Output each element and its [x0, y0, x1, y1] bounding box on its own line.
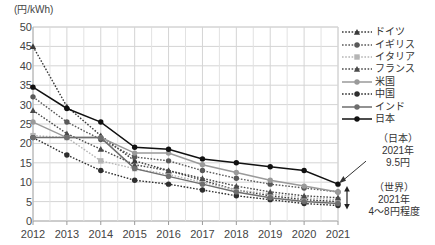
- legend-item-4[interactable]: 米国: [341, 76, 435, 88]
- data-point-marker: [354, 42, 359, 47]
- data-point-marker: [132, 150, 137, 155]
- data-point-marker: [268, 195, 273, 200]
- data-point-marker: [166, 174, 171, 179]
- data-point-marker: [98, 168, 103, 173]
- legend-marker-icon: [341, 39, 373, 51]
- legend-marker-icon: [341, 63, 373, 75]
- x-axis-tick-label: 2017: [190, 228, 214, 240]
- legend-item-label: 日本: [375, 113, 395, 125]
- data-point-marker: [268, 164, 273, 169]
- data-point-marker: [268, 178, 273, 183]
- data-point-marker: [200, 168, 205, 173]
- legend-item-label: イギリス: [375, 39, 415, 51]
- data-point-marker: [200, 187, 205, 192]
- data-point-marker: [98, 158, 103, 163]
- legend-item-3[interactable]: フランス: [341, 63, 435, 75]
- data-point-marker: [166, 158, 171, 163]
- legend-item-label: イタリア: [375, 51, 415, 63]
- legend-marker-icon: [341, 76, 373, 88]
- annotation-japan-line3: 9.5円: [362, 157, 434, 169]
- data-point-marker: [354, 116, 359, 121]
- data-point-marker: [200, 162, 205, 167]
- data-point-marker: [354, 104, 359, 109]
- legend-marker-icon: [341, 88, 373, 100]
- data-point-marker: [30, 94, 35, 99]
- world-range-arrow-head-top: [344, 186, 350, 192]
- x-axis-tick-label: 2021: [326, 228, 350, 240]
- data-point-marker: [98, 135, 103, 140]
- legend-item-0[interactable]: ドイツ: [341, 26, 435, 38]
- data-point-marker: [166, 147, 171, 152]
- x-axis-tick-label: 2016: [156, 228, 180, 240]
- data-point-marker: [200, 181, 205, 186]
- data-point-marker: [98, 146, 104, 152]
- legend-item-label: ドイツ: [375, 26, 405, 38]
- legend-marker-icon: [341, 113, 373, 125]
- annotation-japan-line2: 2021年: [362, 145, 434, 157]
- x-axis-tick-label: 2020: [292, 228, 316, 240]
- data-point-marker: [64, 106, 69, 111]
- x-axis-tick-label: 2012: [21, 228, 45, 240]
- x-axis-tick-label: 2019: [258, 228, 282, 240]
- annotation-world: （世界） 2021年 4〜8円程度: [352, 182, 435, 218]
- annotation-japan: （日本） 2021年 9.5円: [362, 133, 434, 169]
- data-point-marker: [234, 170, 239, 175]
- data-point-marker: [30, 84, 35, 89]
- annotation-world-line1: （世界）: [352, 182, 435, 194]
- data-point-marker: [30, 107, 36, 113]
- annotation-arrow-head: [339, 176, 346, 183]
- legend-item-label: フランス: [375, 63, 415, 75]
- data-point-marker: [64, 152, 69, 157]
- x-axis-tick-label: 2015: [122, 228, 146, 240]
- data-point-marker: [30, 135, 35, 140]
- annotation-world-line3: 4〜8円程度: [352, 206, 435, 218]
- x-axis-tick-label: 2013: [55, 228, 79, 240]
- data-point-marker: [166, 181, 171, 186]
- data-point-marker: [354, 91, 359, 96]
- data-point-marker: [234, 176, 239, 181]
- legend-item-label: インド: [375, 101, 405, 113]
- annotation-world-line2: 2021年: [352, 194, 435, 206]
- data-point-marker: [64, 119, 69, 124]
- data-point-marker: [354, 79, 359, 84]
- x-axis-tick-label: 2014: [89, 228, 113, 240]
- data-point-marker: [234, 160, 239, 165]
- legend-marker-icon: [341, 51, 373, 63]
- data-point-marker: [30, 119, 35, 124]
- data-point-marker: [301, 199, 306, 204]
- line-chart: (円/kWh) 05101520253035404550 20122013201…: [0, 0, 435, 245]
- data-point-marker: [354, 54, 359, 59]
- legend-item-2[interactable]: イタリア: [341, 51, 435, 63]
- data-point-marker: [234, 189, 239, 194]
- data-point-marker: [200, 156, 205, 161]
- data-point-marker: [301, 168, 306, 173]
- data-point-marker: [64, 135, 69, 140]
- world-range-arrow-head-bottom: [344, 204, 350, 210]
- data-point-marker: [132, 145, 137, 150]
- x-axis-tick-labels: 2012201320142015201620172018201920202021: [0, 222, 435, 245]
- legend-item-5[interactable]: 中国: [341, 88, 435, 100]
- annotation-japan-line1: （日本）: [362, 133, 434, 145]
- data-point-marker: [335, 201, 340, 206]
- data-point-marker: [98, 119, 103, 124]
- legend-marker-icon: [341, 26, 373, 38]
- data-point-marker: [132, 178, 137, 183]
- x-axis-tick-label: 2018: [224, 228, 248, 240]
- legend-item-label: 米国: [375, 76, 395, 88]
- data-point-marker: [132, 166, 137, 171]
- legend-item-6[interactable]: インド: [341, 100, 435, 112]
- legend-item-1[interactable]: イギリス: [341, 38, 435, 50]
- legend-item-label: 中国: [375, 88, 395, 100]
- legend-item-7[interactable]: 日本: [341, 113, 435, 125]
- data-point-marker: [335, 189, 340, 194]
- legend: ドイツイギリスイタリアフランス米国中国インド日本: [341, 26, 435, 125]
- legend-marker-icon: [341, 101, 373, 113]
- data-point-marker: [301, 183, 306, 188]
